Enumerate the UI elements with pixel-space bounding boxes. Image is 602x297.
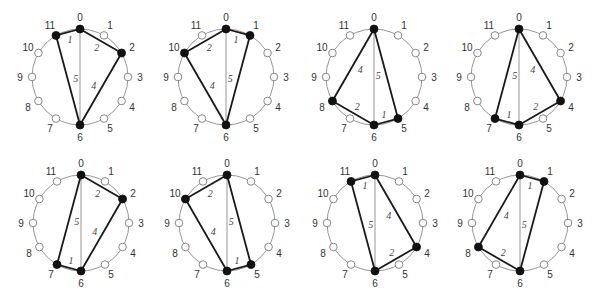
open-point — [468, 219, 476, 227]
point-label: 4 — [569, 248, 575, 259]
filled-point — [52, 31, 60, 39]
open-point — [540, 261, 548, 269]
point-label: 2 — [130, 188, 136, 199]
interval-edge — [332, 101, 374, 125]
open-point — [247, 178, 255, 186]
point-label: 10 — [316, 42, 328, 53]
clock-diagram-8: 152401234567891011 — [457, 158, 583, 289]
open-point — [563, 73, 571, 81]
interval-label: 5 — [522, 219, 527, 230]
interval-label: 1 — [233, 34, 238, 45]
point-label: 2 — [275, 42, 281, 53]
open-point — [199, 261, 207, 269]
interval-edge — [81, 199, 123, 271]
point-label: 11 — [191, 20, 202, 31]
point-label: 5 — [253, 123, 259, 134]
open-point — [322, 73, 330, 81]
point-label: 0 — [77, 12, 83, 23]
filled-point — [223, 267, 231, 275]
open-point — [101, 178, 109, 186]
point-label: 11 — [485, 166, 496, 177]
open-point — [492, 261, 500, 269]
point-label: 0 — [372, 158, 378, 169]
open-point — [181, 97, 189, 105]
point-label: 11 — [339, 20, 350, 31]
point-label: 1 — [546, 20, 552, 31]
point-label: 9 — [457, 218, 463, 229]
open-point — [329, 49, 337, 57]
interval-edge — [519, 29, 561, 101]
interval-label: 4 — [358, 64, 363, 75]
point-label: 3 — [577, 218, 583, 229]
filled-point — [53, 261, 61, 269]
point-label: 4 — [423, 102, 429, 113]
filled-point — [247, 261, 255, 269]
point-label: 10 — [23, 188, 35, 199]
interval-label: 1 — [527, 180, 532, 191]
filled-point — [246, 31, 254, 39]
interval-edge — [519, 101, 561, 125]
interval-edge — [185, 175, 227, 199]
filled-point — [557, 97, 565, 105]
interval-label: 2 — [207, 42, 212, 53]
point-label: 9 — [163, 72, 169, 83]
point-label: 2 — [129, 42, 135, 53]
open-point — [100, 115, 108, 123]
point-label: 5 — [108, 269, 114, 280]
point-label: 0 — [516, 12, 522, 23]
clock-diagram-5: 241501234567891011 — [18, 158, 144, 289]
point-label: 6 — [516, 132, 522, 143]
filled-point — [370, 121, 378, 129]
open-point — [346, 115, 354, 123]
point-label: 8 — [464, 102, 470, 113]
point-label: 9 — [17, 72, 23, 83]
open-point — [413, 195, 421, 203]
open-point — [29, 219, 37, 227]
open-point — [182, 243, 190, 251]
open-point — [246, 115, 254, 123]
point-label: 3 — [138, 218, 144, 229]
open-point — [175, 219, 183, 227]
point-label: 8 — [171, 102, 177, 113]
point-label: 9 — [312, 218, 318, 229]
open-point — [264, 49, 272, 57]
open-point — [346, 32, 354, 40]
filled-point — [516, 267, 524, 275]
interval-label: 1 — [507, 109, 512, 120]
point-label: 3 — [576, 72, 582, 83]
point-label: 4 — [424, 248, 430, 259]
filled-point — [515, 25, 523, 33]
open-point — [474, 97, 482, 105]
point-label: 1 — [253, 20, 259, 31]
point-label: 0 — [223, 12, 229, 23]
point-label: 10 — [462, 188, 474, 199]
point-label: 2 — [569, 188, 575, 199]
point-label: 10 — [22, 42, 34, 53]
interval-edge — [478, 175, 520, 247]
interval-label: 5 — [74, 216, 79, 227]
open-point — [467, 73, 475, 81]
open-point — [118, 97, 126, 105]
filled-point — [474, 243, 482, 251]
interval-label: 1 — [68, 34, 73, 45]
point-label: 1 — [402, 166, 408, 177]
point-label: 5 — [402, 269, 408, 280]
interval-label: 4 — [210, 80, 215, 91]
open-point — [264, 97, 272, 105]
interval-label: 2 — [501, 247, 506, 258]
point-label: 6 — [371, 132, 377, 143]
clock-diagram-6: 514201234567891011 — [164, 158, 290, 289]
open-point — [174, 73, 182, 81]
clock-diagram-2: 154201234567891011 — [163, 12, 289, 143]
filled-point — [371, 171, 379, 179]
filled-point — [413, 243, 421, 251]
open-point — [474, 49, 482, 57]
interval-edge — [375, 247, 417, 271]
interval-edge — [184, 29, 226, 53]
filled-point — [76, 121, 84, 129]
point-label: 0 — [517, 158, 523, 169]
open-point — [198, 115, 206, 123]
open-point — [558, 195, 566, 203]
interval-label: 5 — [73, 73, 78, 84]
open-point — [125, 219, 133, 227]
